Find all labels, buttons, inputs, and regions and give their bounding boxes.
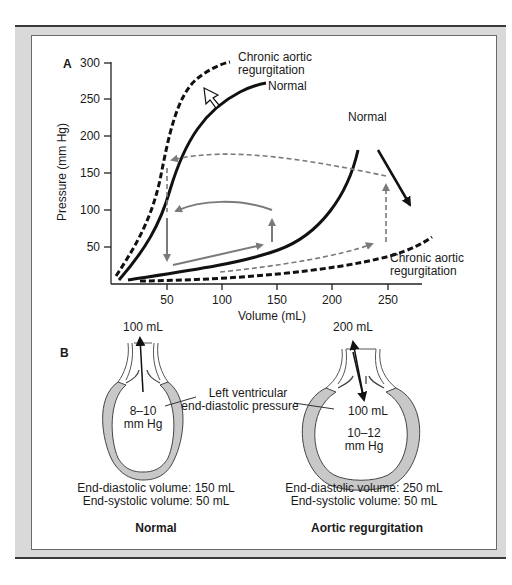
ar-stroke-volume: 200 mL <box>333 320 373 334</box>
normal-esv: End-systolic volume: 50 mL <box>83 494 230 508</box>
svg-text:100: 100 <box>80 203 100 217</box>
svg-text:250: 250 <box>80 92 100 106</box>
normal-title: Normal <box>135 521 176 535</box>
svg-text:300: 300 <box>80 56 100 70</box>
svg-text:50: 50 <box>160 293 174 307</box>
car-top-label-2: regurgitation <box>238 63 305 77</box>
diagram-panel-b: B 100 mL 8–10 mm Hg 200 <box>60 320 443 535</box>
figure-canvas: A 300 250 200 150 100 50 <box>0 0 512 585</box>
svg-text:200: 200 <box>322 293 342 307</box>
normal-stroke-volume: 100 mL <box>123 320 163 334</box>
normal-top-label: Normal <box>268 79 307 93</box>
panel-a-label: A <box>63 57 72 71</box>
svg-text:150: 150 <box>267 293 287 307</box>
car-top-label-1: Chronic aortic <box>238 50 312 64</box>
svg-text:200: 200 <box>80 129 100 143</box>
car-bottom-label-1: Chronic aortic <box>390 251 464 265</box>
lvedp-label-2: end-diastolic pressure <box>181 399 299 413</box>
panel-b-label: B <box>60 346 69 360</box>
normal-edv: End-diastolic volume: 150 mL <box>77 481 235 495</box>
svg-text:150: 150 <box>80 166 100 180</box>
x-axis-label: Volume (mL) <box>238 309 306 323</box>
y-tick-labels: 300 250 200 150 100 50 <box>80 56 100 254</box>
lvedp-label-1: Left ventricular <box>209 386 288 400</box>
ar-pressure-2: mm Hg <box>345 439 384 453</box>
ar-edp-curve <box>140 237 432 281</box>
car-bottom-label-2: regurgitation <box>390 264 457 278</box>
normal-esp-curve <box>119 83 266 280</box>
svg-text:50: 50 <box>87 240 101 254</box>
ar-pressure-1: 10–12 <box>347 426 381 440</box>
y-axis-label: Pressure (mm Hg) <box>55 123 69 221</box>
shift-arrow-icon <box>378 150 410 205</box>
normal-pressure-1: 8–10 <box>130 404 157 418</box>
hollow-arrow-icon <box>204 88 219 108</box>
normal-pressure-2: mm Hg <box>124 417 163 431</box>
ar-regurgitant-volume: 100 mL <box>348 404 388 418</box>
normal-right-label: Normal <box>348 110 387 124</box>
chart-panel-a: A 300 250 200 150 100 50 <box>55 50 464 323</box>
ar-esv: End-systolic volume: 50 mL <box>291 494 438 508</box>
ar-title: Aortic regurgitation <box>311 521 423 535</box>
ar-ventricle: 200 mL 100 mL 10–12 mm Hg <box>302 320 419 490</box>
normal-ventricle: 100 mL 8–10 mm Hg <box>103 320 183 480</box>
ar-edv: End-diastolic volume: 250 mL <box>285 481 443 495</box>
svg-text:250: 250 <box>378 293 398 307</box>
x-tick-labels: 50 100 150 200 250 <box>160 293 398 307</box>
svg-text:100: 100 <box>212 293 232 307</box>
